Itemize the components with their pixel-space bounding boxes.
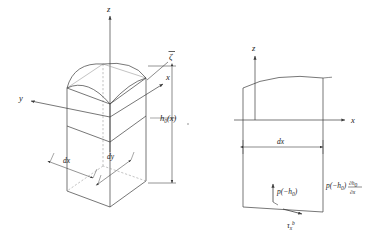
dx-extension-a [50, 153, 54, 162]
y-axis-left [31, 101, 110, 117]
x-axis-left [110, 84, 163, 117]
x-axis-label-left: x [165, 72, 170, 82]
left-panel: z x y ζ [18, 4, 177, 207]
dy-dimension-line-left [98, 160, 131, 184]
prism-bottom-back-left [67, 166, 103, 191]
z-axis-label-right: z [251, 43, 256, 53]
prism-bottom-back-right [103, 166, 146, 181]
dy-extension-b [131, 152, 134, 160]
pressure-right-denominator: ∂x [350, 189, 356, 195]
dx-label-right: dx [277, 137, 285, 146]
z-axis-label-left: z [106, 4, 111, 14]
pressure-right-label: p(−h0) [325, 181, 347, 191]
pressure-left-leader [273, 202, 278, 205]
y-axis-label-left: y [18, 93, 23, 103]
free-surface-overshoot [323, 77, 332, 78]
prism-mid-front-left [67, 126, 110, 142]
dy-label-left: dy [107, 152, 115, 161]
separator-dot [187, 123, 188, 124]
dx-label-left: dx [63, 156, 71, 165]
pressure-right-numerator: ∂h0 [349, 180, 358, 188]
dx-dimension-line-left [50, 162, 93, 178]
x-axis-label-right: x [350, 115, 355, 125]
depth-label: h0(x) [160, 113, 177, 124]
surface-elevation-label: ζ [169, 52, 173, 62]
bed-shear-label: τxb [287, 220, 295, 231]
pressure-left-label: p(−h0) [276, 187, 298, 197]
right-panel: z x dx p(−h0) p(−h0) ∂h0 [234, 43, 362, 231]
prism-bottom-front-right [110, 181, 146, 207]
cv-bed-line [243, 207, 323, 212]
diagram-canvas: z x y ζ [0, 0, 370, 238]
zeta-leader-line [147, 62, 168, 80]
figure-container: z x y ζ [0, 0, 370, 238]
prism-bottom-front-left [67, 191, 110, 207]
free-surface-front-edge [67, 85, 110, 104]
prism-mid-front-right [110, 116, 146, 142]
prism-upper-front-left [67, 88, 110, 104]
dx-extension-b [93, 169, 97, 178]
prism-upper-front-right [110, 78, 146, 104]
